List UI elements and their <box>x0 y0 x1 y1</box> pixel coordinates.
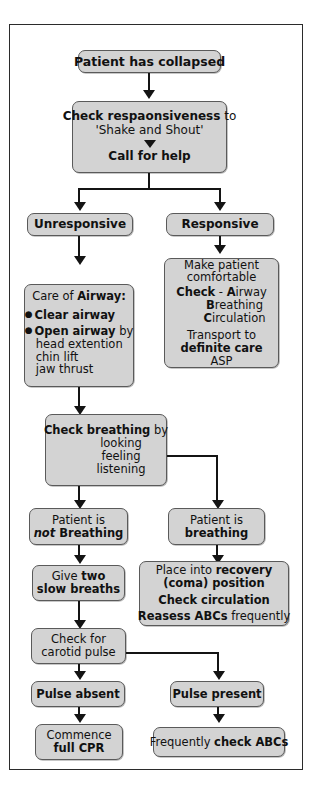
node-pulse-absent-label: Pulse absent <box>36 688 120 701</box>
down-triangle-icon <box>144 140 156 148</box>
node-check-breathing: Check breathing by looking feeling liste… <box>45 414 167 486</box>
node-transport-line: Transport to <box>187 329 256 342</box>
connector-breathing-to-is-breathing-vertical <box>216 455 218 502</box>
list-item-open-airway: ●Open airway by <box>25 325 134 338</box>
node-responsive: Responsive <box>166 213 274 236</box>
arrowhead-to-commence-cpr <box>74 714 86 723</box>
node-care-of-airway-bullets: ●Clear airway ●Open airway by head exten… <box>25 309 134 376</box>
node-is-breathing-line1: Patient is <box>190 514 243 527</box>
list-item-jaw-thrust: jaw thrust <box>25 363 134 376</box>
node-not-breathing: Patient is not Breathing <box>29 508 128 545</box>
node-is-breathing-line2: breathing <box>185 527 249 540</box>
arrowhead-to-responsive <box>214 202 226 211</box>
node-patient-collapsed-label: Patient has collapsed <box>74 55 225 69</box>
node-call-for-help-label: Call for help <box>108 150 190 163</box>
node-recovery-position: Place into recovery (coma) position Chec… <box>139 561 289 626</box>
node-two-slow-breaths: Give two slow breaths <box>32 565 125 601</box>
arrowhead-to-make-comfortable <box>214 245 226 254</box>
arrowhead-to-pulse-present <box>213 671 225 680</box>
node-definite-care-line: definite care <box>180 342 262 355</box>
node-patient-collapsed: Patient has collapsed <box>78 50 221 73</box>
node-carotid-pulse-line2: carotid pulse <box>41 646 115 659</box>
node-is-breathing: Patient is breathing <box>168 508 265 545</box>
arrowhead-to-care-of-airway <box>74 256 86 265</box>
node-check-circulation: Check circulation <box>158 594 270 607</box>
node-asp-line: ASP <box>210 355 232 368</box>
arrowhead-to-unresponsive <box>74 202 86 211</box>
node-two-slow-breaths-line2: slow breaths <box>37 583 120 596</box>
node-check-responsiveness: Check respaonsiveness to 'Shake and Shou… <box>72 101 227 173</box>
connector-breathing-to-is-breathing-horizontal <box>167 455 218 457</box>
node-unresponsive-label: Unresponsive <box>34 218 126 231</box>
node-care-of-airway-heading: Care of Airway: <box>32 290 126 303</box>
node-recovery-position-line2: (coma) position <box>163 577 264 590</box>
node-check-breathing-sub3: listening <box>66 463 145 476</box>
node-pulse-absent: Pulse absent <box>31 681 125 707</box>
node-check-circulation-line: Circulation <box>177 312 265 325</box>
node-carotid-pulse: Check for carotid pulse <box>31 628 126 664</box>
connector-carotid-to-pulse-present-horizontal <box>126 652 219 654</box>
node-make-comfortable: Make patient comfortable Check - Airway … <box>164 258 279 368</box>
arrowhead-to-check-abcs <box>213 714 225 723</box>
node-frequently-check-abcs: Frequently check ABCs <box>153 727 285 757</box>
list-item-head-extention: head extention <box>25 338 134 351</box>
node-care-of-airway: Care of Airway: ●Clear airway ●Open airw… <box>24 284 134 387</box>
node-frequently-check-abcs-label: Frequently check ABCs <box>150 736 289 749</box>
connector-branch-horizontal <box>78 188 221 190</box>
node-check-responsiveness-line1: Check respaonsiveness to <box>63 110 237 123</box>
node-pulse-present: Pulse present <box>170 681 264 707</box>
node-check-breathing-sub2: feeling <box>71 450 140 463</box>
node-recovery-position-line1: Place into recovery <box>156 564 273 577</box>
node-check-responsiveness-line2: 'Shake and Shout' <box>95 124 203 137</box>
node-reasess-abcs: Reasess ABCs frequently <box>138 610 290 623</box>
list-item-clear-airway: ●Clear airway <box>25 309 134 322</box>
arrowhead-to-pulse-absent <box>74 671 86 680</box>
node-unresponsive: Unresponsive <box>27 213 133 236</box>
flowchart-page: Patient has collapsed Check respaonsiven… <box>0 0 318 797</box>
node-commence-full-cpr: Commence full CPR <box>35 724 123 760</box>
arrowhead-to-responsiveness <box>143 90 155 99</box>
node-pulse-present-label: Pulse present <box>172 688 261 701</box>
node-not-breathing-line2: not Breathing <box>34 527 124 540</box>
connector-unresponsive-to-airway <box>78 236 80 258</box>
node-make-comfortable-line2: comfortable <box>187 271 257 284</box>
node-commence-full-cpr-line2: full CPR <box>54 742 105 755</box>
node-responsive-label: Responsive <box>181 218 258 231</box>
arrowhead-to-two-breaths <box>74 555 86 564</box>
